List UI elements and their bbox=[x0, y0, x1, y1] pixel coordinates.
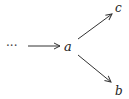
node-a: a bbox=[64, 39, 72, 54]
arrow-a-to-c bbox=[78, 14, 112, 39]
node-b: b bbox=[115, 84, 123, 98]
arrow-a-to-b bbox=[78, 55, 111, 82]
node-dots: ··· bbox=[6, 39, 17, 53]
diagram-canvas: ··· a c b bbox=[0, 0, 129, 99]
node-c: c bbox=[115, 1, 122, 15]
